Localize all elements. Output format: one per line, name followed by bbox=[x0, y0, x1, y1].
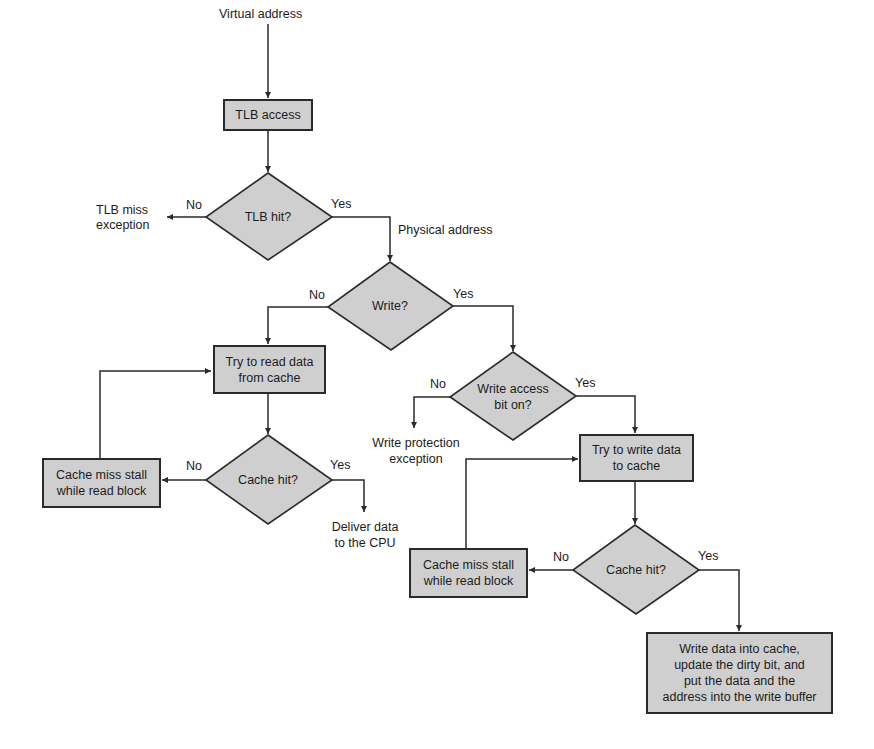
node-tlb-access: TLB access bbox=[223, 99, 313, 131]
terminal-deliver: Deliver data to the CPU bbox=[324, 519, 406, 551]
node-read-miss-stall: Cache miss stall while read block bbox=[42, 458, 161, 508]
terminal-tlb-miss-line1: TLB miss bbox=[96, 203, 150, 218]
node-write-cache-line1: Try to write data bbox=[592, 442, 681, 458]
node-write-miss-stall-line2: while read block bbox=[424, 573, 514, 589]
label-tlb-yes: Yes bbox=[331, 196, 351, 212]
label-write-hit-no: No bbox=[553, 549, 569, 565]
node-write-done-line4: address into the write buffer bbox=[662, 689, 816, 705]
node-write-done: Write data into cache, update the dirty … bbox=[646, 632, 833, 714]
node-tlb-access-text: TLB access bbox=[235, 107, 300, 123]
write-cache-hit-text: Cache hit? bbox=[586, 560, 686, 580]
write-q-text: Write? bbox=[340, 296, 440, 316]
node-write-cache-line2: to cache bbox=[613, 458, 660, 474]
terminal-write-protection: Write protection exception bbox=[362, 435, 470, 467]
node-read-miss-stall-line2: while read block bbox=[57, 483, 147, 499]
node-read-cache: Try to read data from cache bbox=[213, 345, 326, 394]
terminal-tlb-miss-line2: exception bbox=[96, 218, 150, 233]
label-write-access-yes: Yes bbox=[575, 375, 595, 391]
terminal-tlb-miss: TLB miss exception bbox=[96, 203, 150, 233]
label-write-no: No bbox=[309, 287, 325, 303]
edge-read-miss-loop bbox=[100, 371, 211, 458]
node-read-cache-line2: from cache bbox=[239, 370, 301, 386]
edge-write-access-yes bbox=[576, 396, 635, 433]
label-physical-address: Physical address bbox=[398, 222, 493, 238]
edge-tlb-hit-to-write bbox=[332, 217, 390, 261]
node-read-cache-line1: Try to read data bbox=[226, 354, 314, 370]
write-access-text: Write access bit on? bbox=[463, 380, 563, 414]
node-write-done-line2: update the dirty bit, and bbox=[674, 657, 805, 673]
terminal-deliver-line2: to the CPU bbox=[324, 535, 406, 551]
write-access-line1: Write access bbox=[477, 381, 548, 397]
label-tlb-no: No bbox=[186, 197, 202, 213]
terminal-deliver-line1: Deliver data bbox=[324, 519, 406, 535]
start-label-virtual-address: Virtual address bbox=[219, 6, 302, 22]
tlb-hit-text: TLB hit? bbox=[218, 207, 318, 227]
label-write-access-no: No bbox=[430, 376, 446, 392]
terminal-write-protection-line2: exception bbox=[362, 451, 470, 467]
edge-read-hit-yes bbox=[332, 480, 364, 512]
node-write-cache: Try to write data to cache bbox=[579, 434, 694, 482]
label-read-hit-yes: Yes bbox=[330, 457, 350, 473]
node-write-miss-stall: Cache miss stall while read block bbox=[409, 548, 528, 598]
node-write-done-line3: put the data and the bbox=[684, 673, 795, 689]
label-read-hit-no: No bbox=[186, 458, 202, 474]
edge-write-yes bbox=[453, 306, 513, 351]
edge-write-miss-loop bbox=[466, 459, 578, 548]
label-write-hit-yes: Yes bbox=[698, 548, 718, 564]
edge-write-access-no bbox=[414, 397, 450, 428]
node-write-miss-stall-line1: Cache miss stall bbox=[423, 557, 514, 573]
node-write-done-line1: Write data into cache, bbox=[679, 641, 800, 657]
node-read-miss-stall-line1: Cache miss stall bbox=[56, 467, 147, 483]
edge-write-no bbox=[268, 307, 328, 344]
read-cache-hit-text: Cache hit? bbox=[218, 470, 318, 490]
terminal-write-protection-line1: Write protection bbox=[362, 435, 470, 451]
label-write-yes: Yes bbox=[453, 286, 473, 302]
write-access-line2: bit on? bbox=[494, 397, 532, 413]
edge-write-hit-yes bbox=[699, 570, 739, 631]
